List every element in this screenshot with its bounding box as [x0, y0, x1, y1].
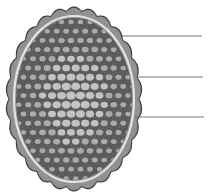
cell: [136, 39, 140, 42]
cell: [112, 177, 116, 181]
cell: [126, 168, 130, 171]
cell: [131, 177, 134, 180]
cell: [136, 149, 140, 152]
cell: [26, 177, 30, 180]
cell: [12, 168, 16, 171]
cell: [140, 66, 144, 69]
cell: [131, 158, 135, 161]
cell: [22, 20, 26, 23]
cell: [12, 39, 16, 42]
cell: [12, 21, 15, 24]
cell: [31, 20, 35, 24]
cell: [140, 121, 144, 124]
egg-diagram: [0, 0, 209, 192]
cell: [17, 30, 21, 33]
cell: [17, 158, 21, 161]
cell: [12, 149, 16, 152]
cell: [141, 159, 144, 162]
cell: [136, 21, 139, 24]
cell: [116, 20, 120, 23]
cell: [121, 177, 125, 180]
cell: [141, 30, 144, 33]
cell: [131, 30, 135, 33]
cell: [126, 20, 130, 23]
cell: [135, 57, 139, 61]
cell: [121, 29, 125, 33]
egg-illustration: [0, 0, 209, 192]
cell: [136, 168, 139, 171]
cell: [141, 177, 144, 179]
cell: [140, 140, 144, 143]
cell: [21, 167, 25, 170]
cell: [17, 177, 20, 180]
cell: [140, 48, 144, 51]
cell: [126, 39, 130, 43]
